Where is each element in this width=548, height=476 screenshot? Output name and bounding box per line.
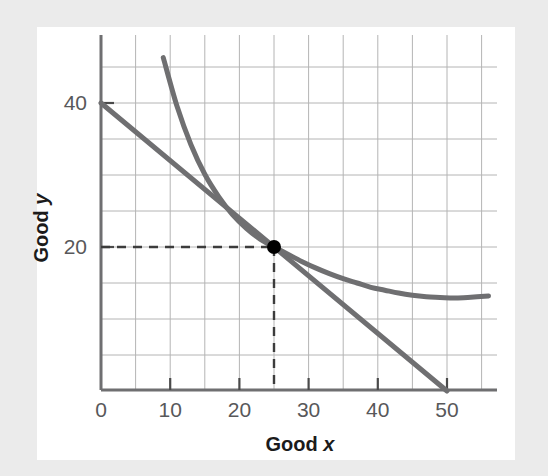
x-axis-title-prefix: Good bbox=[266, 433, 324, 455]
tangency-point-marker bbox=[267, 240, 281, 254]
y-axis-title-prefix: Good bbox=[30, 205, 52, 263]
x-axis-ticks bbox=[170, 378, 447, 390]
x-tick-label: 10 bbox=[159, 398, 182, 421]
y-tick-label: 20 bbox=[64, 235, 87, 258]
x-tick-label: 0 bbox=[95, 398, 107, 421]
x-tick-label: 20 bbox=[228, 398, 251, 421]
x-tick-label: 30 bbox=[297, 398, 320, 421]
gridlines-horizontal bbox=[102, 67, 497, 355]
indifference-curve bbox=[163, 58, 488, 298]
gridlines-vertical bbox=[136, 35, 482, 390]
x-axis-title: Good x bbox=[266, 433, 336, 455]
x-tick-label: 50 bbox=[435, 398, 458, 421]
x-axis-title-symbol: x bbox=[322, 433, 335, 455]
x-tick-label: 40 bbox=[366, 398, 389, 421]
chart-canvas: 01020304050 2040 Good x Good y bbox=[0, 0, 548, 476]
y-axis-title: Good y bbox=[30, 193, 52, 263]
x-axis-tick-labels: 01020304050 bbox=[95, 398, 459, 421]
y-tick-label: 40 bbox=[64, 91, 87, 114]
y-axis-title-symbol: y bbox=[30, 193, 52, 206]
y-axis-tick-labels: 2040 bbox=[64, 91, 87, 258]
figure-container: 01020304050 2040 Good x Good y bbox=[0, 0, 548, 476]
